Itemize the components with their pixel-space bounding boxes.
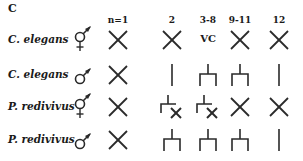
column-header-2: 2 xyxy=(152,15,192,25)
line-icon xyxy=(265,126,293,154)
male-icon xyxy=(72,127,94,155)
species-label: P. redivivus xyxy=(8,100,68,112)
fork-icon xyxy=(226,61,254,89)
fork-cross-icon xyxy=(158,93,186,121)
cross-icon xyxy=(265,26,293,54)
fork-icon xyxy=(226,126,254,154)
hermaphrodite-icon xyxy=(72,25,94,53)
fork-icon xyxy=(194,61,222,89)
male-icon xyxy=(72,62,94,90)
cross-icon xyxy=(104,61,132,89)
cross-icon xyxy=(226,93,254,121)
column-header-n1: n=1 xyxy=(98,15,138,25)
cross-icon xyxy=(104,26,132,54)
hermaphrodite-icon xyxy=(72,92,94,120)
species-label: C. elegans xyxy=(8,33,68,45)
line-icon xyxy=(158,61,186,89)
cross-icon xyxy=(265,93,293,121)
column-header-9-11: 9-11 xyxy=(220,15,260,25)
cross-icon xyxy=(104,93,132,121)
fork-icon xyxy=(158,126,186,154)
species-label: C. elegans xyxy=(8,68,68,80)
fork-icon xyxy=(194,126,222,154)
fork-cross-icon xyxy=(194,93,222,121)
panel-label: C xyxy=(8,2,17,15)
vc-label: VC xyxy=(193,33,223,44)
cross-icon xyxy=(104,126,132,154)
column-header-12: 12 xyxy=(259,15,299,25)
cross-icon xyxy=(158,26,186,54)
line-icon xyxy=(265,61,293,89)
species-label: P. redivivus xyxy=(8,133,68,145)
cross-icon xyxy=(226,26,254,54)
